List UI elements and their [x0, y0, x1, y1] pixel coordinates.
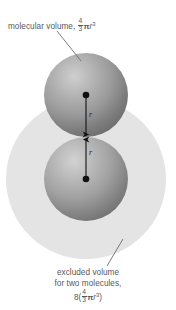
upper-radius-label: r: [89, 110, 92, 119]
lower-center-dot: [83, 176, 90, 183]
top-leader-line: [57, 31, 81, 61]
excluded-volume-line1: excluded volume: [0, 268, 176, 279]
formula-paren-close: ): [99, 293, 102, 302]
excluded-volume-formula: 8(43πr3): [0, 289, 176, 304]
fraction-denominator-bottom: 3: [82, 297, 87, 304]
molecular-volume-text: molecular volume,: [8, 22, 78, 31]
excluded-volume-figure: molecular volume, 43πr3 excluded volume …: [0, 0, 176, 310]
diagram-canvas: [0, 0, 176, 310]
molecular-volume-label: molecular volume, 43πr3: [8, 18, 96, 33]
exponent-top: 3: [92, 21, 95, 27]
lower-radius-label: r: [89, 148, 92, 157]
four-thirds-fraction-bottom: 43: [82, 289, 87, 304]
excluded-volume-line2: for two molecules,: [0, 279, 176, 290]
upper-center-dot: [83, 92, 90, 99]
excluded-volume-label: excluded volume for two molecules, 8(43π…: [0, 268, 176, 304]
